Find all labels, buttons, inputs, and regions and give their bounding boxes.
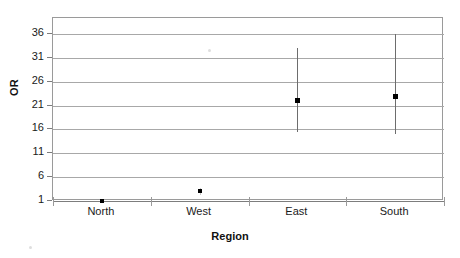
- category-label-east: East: [248, 205, 346, 217]
- odds-ratio-chart: OR 16111621263136 NorthWestEastSouth Reg…: [0, 0, 460, 258]
- y-tick-label-26: 26: [0, 75, 44, 86]
- y-tick-mark-1: [47, 200, 52, 201]
- speck-artifact: [208, 49, 211, 52]
- data-point-south: [393, 94, 398, 99]
- corner-speck-artifact: [29, 246, 32, 249]
- category-label-south: South: [345, 205, 443, 217]
- y-tick-label-11: 11: [0, 146, 44, 157]
- plot-area: [52, 17, 443, 200]
- y-tick-label-1: 1: [0, 194, 44, 205]
- category-label-north: North: [52, 205, 150, 217]
- x-tick-4: [444, 197, 445, 206]
- y-tick-label-36: 36: [0, 27, 44, 38]
- gridline-31: [53, 58, 444, 59]
- y-tick-label-31: 31: [0, 51, 44, 62]
- error-bar-east: [297, 48, 298, 132]
- y-tick-label-16: 16: [0, 122, 44, 133]
- gridline-36: [53, 34, 444, 35]
- error-bar-south: [395, 34, 396, 134]
- y-tick-label-21: 21: [0, 99, 44, 110]
- y-tick-label-6: 6: [0, 170, 44, 181]
- data-point-west: [198, 189, 202, 193]
- gridline-16: [53, 129, 444, 130]
- gridline-26: [53, 82, 444, 83]
- category-label-west: West: [150, 205, 248, 217]
- gridline-11: [53, 153, 444, 154]
- gridline-6: [53, 177, 444, 178]
- data-point-east: [295, 98, 300, 103]
- gridline-21: [53, 106, 444, 107]
- data-point-north: [100, 199, 104, 203]
- x-axis-title: Region: [0, 230, 460, 242]
